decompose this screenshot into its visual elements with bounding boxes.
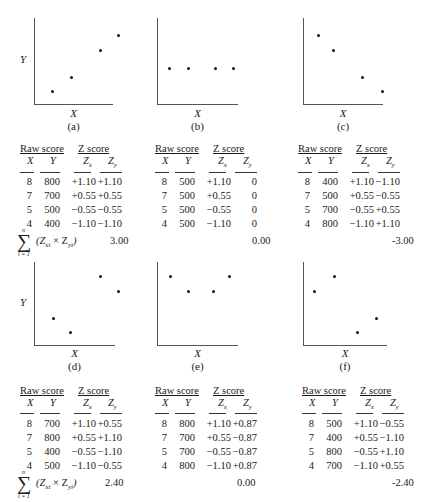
column-rule — [175, 413, 195, 414]
table-cell: +0.55 — [92, 418, 122, 429]
zx-subscript: x — [367, 161, 370, 169]
panel-caption: (d) — [61, 360, 89, 372]
sigma-upper-limit: n — [22, 469, 25, 475]
table-cell: −0.55 — [374, 418, 404, 429]
table-cell: 4 — [280, 218, 310, 229]
z-score-header: Z score — [356, 143, 387, 154]
table-cell: 4 — [2, 460, 32, 471]
col-zy-header: Zy — [243, 397, 252, 411]
table-cell: 0 — [227, 204, 257, 215]
raw-score-header: Raw score — [302, 385, 346, 396]
table-cell: 500 — [165, 176, 195, 187]
x-axis-label: X — [64, 107, 84, 119]
table-cell: 7 — [2, 432, 32, 443]
table-cell: 8 — [284, 418, 314, 429]
col-zy-header: Zy — [390, 397, 399, 411]
table-cell: −0.87 — [227, 446, 257, 457]
col-zx-header: Zx — [83, 397, 92, 411]
col-x-header: X — [27, 397, 33, 408]
table-cell: +0.55 — [370, 204, 400, 215]
table-cell: 500 — [308, 190, 338, 201]
data-point — [117, 290, 120, 293]
table-cell: 400 — [308, 176, 338, 187]
table-cell: 500 — [30, 204, 60, 215]
panel-caption: (b) — [184, 120, 212, 132]
table-cell: 700 — [312, 460, 342, 471]
data-point — [52, 317, 55, 320]
data-point — [381, 90, 384, 93]
table-cell: 400 — [30, 446, 60, 457]
col-y-header: Y — [185, 397, 191, 408]
column-rule — [235, 413, 257, 414]
column-rule — [155, 413, 169, 414]
column-rule — [209, 172, 226, 173]
column-rule — [74, 172, 91, 173]
sum-value: 2.40 — [105, 477, 123, 488]
col-zx-header: Zx — [361, 155, 370, 169]
data-point — [332, 49, 335, 52]
y-axis-line-b — [157, 18, 158, 104]
table-cell: 800 — [165, 418, 195, 429]
column-rule — [100, 172, 122, 173]
zy-subscript: y — [392, 161, 395, 169]
raw-score-header: Raw score — [155, 143, 199, 154]
x-axis-line-c — [303, 104, 383, 105]
zy-subscript: y — [114, 161, 117, 169]
data-point — [169, 275, 172, 278]
table-cell: 4 — [2, 218, 32, 229]
column-rule — [352, 172, 369, 173]
table-cell: 700 — [30, 190, 60, 201]
panel-caption: (f) — [331, 360, 359, 372]
column-rule — [382, 413, 404, 414]
x-axis-line-b — [157, 104, 238, 105]
z-score-header: Z score — [78, 385, 109, 396]
column-rule — [209, 413, 226, 414]
table-cell: 4 — [284, 460, 314, 471]
table-cell: 500 — [312, 418, 342, 429]
table-cell: 500 — [30, 460, 60, 471]
col-y-header: Y — [50, 397, 56, 408]
table-cell: +0.55 — [374, 460, 404, 471]
panel-caption: (c) — [329, 120, 357, 132]
col-zy-header: Zy — [243, 155, 252, 169]
sigma-lower-limit: i = 1 — [18, 251, 30, 257]
table-cell: −1.10 — [92, 446, 122, 457]
x-axis-line-e — [157, 345, 238, 346]
col-y-header: Y — [332, 397, 338, 408]
table-cell: 7 — [2, 190, 32, 201]
table-cell: 5 — [2, 446, 32, 457]
sigma-symbol: ∑ — [17, 231, 31, 251]
panel-caption: (e) — [184, 360, 212, 372]
data-point — [187, 67, 190, 70]
table-cell: 800 — [30, 176, 60, 187]
table-cell: 8 — [2, 418, 32, 429]
column-rule — [235, 172, 257, 173]
data-point — [99, 275, 102, 278]
table-cell: 7 — [280, 190, 310, 201]
table-cell: 0 — [227, 176, 257, 187]
table-cell: −1.10 — [92, 218, 122, 229]
data-point — [69, 331, 72, 334]
sum-expression: (Zxi × Zyi) — [36, 235, 77, 249]
table-cell: +1.10 — [92, 432, 122, 443]
y-axis-line-c — [303, 18, 304, 104]
table-cell: 500 — [165, 190, 195, 201]
table-cell: 8 — [280, 176, 310, 187]
zy-subscript: y — [114, 403, 117, 411]
table-cell: 4 — [137, 218, 167, 229]
x-axis-label: X — [333, 107, 353, 119]
col-zx-header: Zx — [83, 155, 92, 169]
col-y-header: Y — [185, 155, 191, 166]
table-cell: −1.10 — [370, 176, 400, 187]
table-cell: 5 — [284, 446, 314, 457]
table-cell: 8 — [137, 418, 167, 429]
table-cell: 0 — [227, 190, 257, 201]
table-cell: 700 — [165, 432, 195, 443]
data-point — [168, 67, 171, 70]
table-cell: −1.10 — [374, 432, 404, 443]
data-point — [117, 34, 120, 37]
y-axis-line-d — [34, 262, 35, 345]
zy-subscript: y — [396, 403, 399, 411]
table-cell: 5 — [280, 204, 310, 215]
table-cell: +1.10 — [370, 218, 400, 229]
